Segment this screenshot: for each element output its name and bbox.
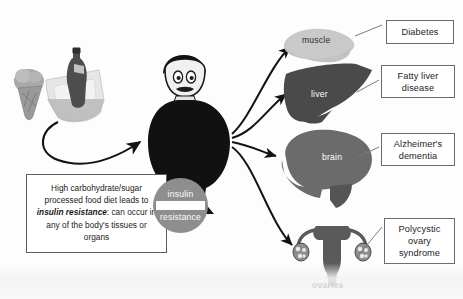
arrow-to-ovaries xyxy=(232,147,292,245)
desc-line-3-pre: to xyxy=(141,195,148,205)
outcome-box-fatty-liver-disease-text: Fatty liver disease xyxy=(398,70,439,94)
muscle-shape xyxy=(284,29,354,63)
arrow-to-muscle xyxy=(232,47,290,134)
desc-line-1: High carbohydrate/sugar xyxy=(51,183,142,193)
brain-shape xyxy=(282,130,372,208)
line-2: dementia xyxy=(399,151,438,161)
outcome-box-alzheimers-dementia-text: Alzheimer's dementia xyxy=(394,138,442,162)
liver-shape xyxy=(284,64,372,124)
organ-label-brain: brain xyxy=(322,152,342,162)
outcome-box-polycystic-ovary-syndrome-text: Polycystic ovary syndrome xyxy=(399,223,441,259)
insulin-resistance-node: insulin resistance xyxy=(153,178,208,233)
junk-food-illustration xyxy=(14,48,104,123)
line-2: ovary xyxy=(408,236,431,246)
desc-line-3-post: : can xyxy=(107,207,125,217)
organ-label-liver: liver xyxy=(311,89,328,99)
outcome-box-diabetes: Diabetes xyxy=(386,20,454,44)
line-1: Fatty liver xyxy=(398,71,439,81)
cystic-ovary-right xyxy=(355,243,371,261)
ovaries-shape xyxy=(293,226,371,286)
line-2: disease xyxy=(402,83,434,93)
cystic-ovary-left xyxy=(293,243,309,261)
outcome-box-alzheimers-dementia: Alzheimer's dementia xyxy=(381,133,455,166)
outcome-box-diabetes-text: Diabetes xyxy=(401,26,438,38)
line-3: syndrome xyxy=(399,248,440,258)
organ-label-ovaries: ovaries xyxy=(312,280,344,290)
ice-cream-cone-icon xyxy=(14,69,44,120)
line-1: Polycystic xyxy=(399,224,441,234)
outcome-box-polycystic-ovary-syndrome: Polycystic ovary syndrome xyxy=(384,218,455,264)
arrow-food-to-person xyxy=(43,122,140,164)
line-1: Alzheimer's xyxy=(394,139,442,149)
desc-line-2: processed food diet leads xyxy=(45,195,140,205)
leader-muscle-to-diabetes xyxy=(355,25,382,36)
insulin-resistance-blocking-bar xyxy=(156,201,205,210)
arrow-to-liver xyxy=(232,94,286,138)
organ-label-muscle: muscle xyxy=(302,35,330,45)
description-text-box: High carbohydrate/sugar processed food d… xyxy=(26,174,167,253)
insulin-resistance-word-top: insulin xyxy=(168,189,194,200)
outcome-box-fatty-liver-disease: Fatty liver disease xyxy=(381,65,455,98)
diagram-canvas: muscle liver brain ovaries Diabetes Fatt… xyxy=(0,0,463,299)
insulin-resistance-word-bottom: resistance xyxy=(160,212,201,223)
desc-emphasis-insulin-resistance: insulin resistance xyxy=(37,207,107,217)
